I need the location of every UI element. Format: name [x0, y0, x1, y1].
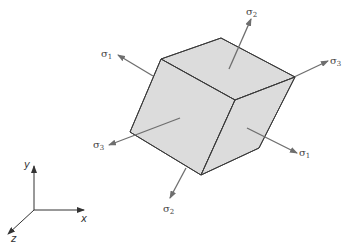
y-axis-label: y [23, 159, 31, 170]
stress-cube-diagram: σ1 σ2 σ3 σ3 σ1 σ2 y x z [0, 0, 349, 251]
sigma2-top-label: σ2 [246, 6, 257, 19]
sigma1-upper-left-arrow [118, 55, 153, 76]
cube [130, 38, 295, 175]
sigma2-bottom-label: σ2 [163, 203, 174, 216]
sigma1-upper-left-label: σ1 [101, 48, 112, 61]
sigma2-bottom-arrow [170, 168, 186, 198]
coordinate-axes: y x z [8, 159, 87, 244]
sigma3-right-arrow [292, 61, 328, 78]
sigma3-left-label: σ3 [93, 139, 104, 152]
sigma1-lower-right-label: σ1 [299, 147, 310, 160]
z-axis-label: z [10, 233, 17, 244]
sigma3-right-label: σ3 [330, 55, 341, 68]
x-axis-label: x [80, 213, 87, 224]
z-axis [8, 210, 34, 234]
